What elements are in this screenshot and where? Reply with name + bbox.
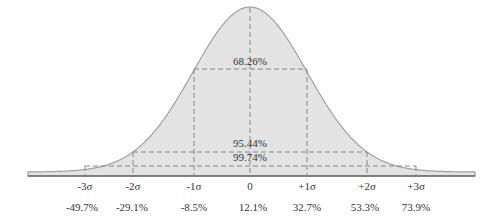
band-label-1sigma: 68.26% (233, 55, 267, 67)
tick-sigma-0: 0 (247, 180, 253, 192)
tick-value-neg3: -49.7% (66, 201, 98, 213)
band-label-2sigma: 95.44% (233, 137, 267, 149)
tick-value-neg1: -8.5% (181, 201, 208, 213)
tick-sigma-neg1: -1σ (186, 180, 201, 192)
tick-sigma-pos3: +3σ (407, 180, 425, 192)
tick-sigma-neg3: -3σ (77, 180, 92, 192)
tick-sigma-neg2: -2σ (125, 180, 140, 192)
tick-value-neg2: -29.1% (116, 201, 148, 213)
tick-value-pos1: 32.7% (293, 201, 321, 213)
tick-value-pos2: 53.3% (351, 201, 379, 213)
tick-value-0: 12.1% (239, 201, 267, 213)
tick-sigma-pos2: +2σ (358, 180, 376, 192)
band-label-3sigma: 99.74% (233, 151, 267, 163)
tick-value-pos3: 73.9% (402, 201, 430, 213)
tick-sigma-pos1: +1σ (298, 180, 316, 192)
